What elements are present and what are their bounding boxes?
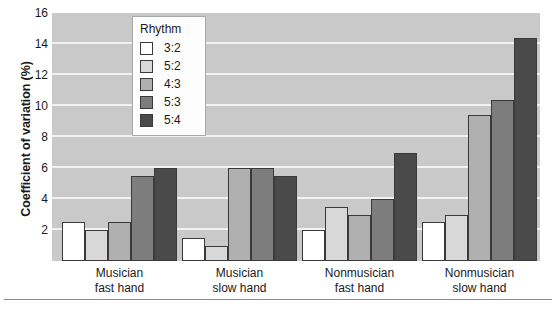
bar	[302, 230, 325, 261]
bar	[371, 199, 394, 261]
legend-title: Rhythm	[140, 22, 199, 36]
x-category-label-line: slow hand	[179, 281, 301, 296]
bar	[325, 207, 348, 261]
legend-label: 3:2	[164, 42, 181, 55]
x-category-label-line: fast hand	[59, 281, 181, 296]
legend-swatch	[140, 60, 153, 73]
footer-divider	[4, 299, 552, 300]
y-tick-label: 10	[18, 100, 48, 112]
y-tick-label: 2	[18, 224, 48, 236]
x-category-label: Musicianslow hand	[179, 266, 301, 296]
y-tick-label: 14	[18, 38, 48, 50]
x-category-label: Nonmusicianslow hand	[419, 266, 541, 296]
x-category-label: Nonmusicianfast hand	[299, 266, 421, 296]
x-category-label-line: slow hand	[419, 281, 541, 296]
bar	[468, 115, 491, 261]
x-category-label-line: Musician	[179, 266, 301, 281]
y-axis-tick-labels: 246810121416	[18, 0, 48, 280]
bar	[348, 215, 371, 262]
legend-label: 5:2	[164, 60, 181, 73]
bar	[445, 215, 468, 262]
y-tick-label: 16	[18, 7, 48, 19]
legend-swatch	[140, 78, 153, 91]
y-tick-label: 12	[18, 69, 48, 81]
x-axis-category-labels: Musicianfast handMusicianslow handNonmus…	[52, 266, 540, 300]
bar	[274, 176, 297, 261]
bar	[85, 230, 108, 261]
x-category-label-line: Nonmusician	[419, 266, 541, 281]
bar	[422, 222, 445, 261]
bar	[394, 153, 417, 262]
legend-entry: 5:3	[140, 93, 199, 111]
y-tick-label: 8	[18, 131, 48, 143]
bar	[131, 176, 154, 261]
legend-entry: 5:4	[140, 111, 199, 129]
bar	[205, 246, 228, 262]
bar	[514, 38, 537, 261]
legend-entry: 4:3	[140, 75, 199, 93]
legend-label: 4:3	[164, 78, 181, 91]
bar	[491, 100, 514, 261]
x-category-label-line: fast hand	[299, 281, 421, 296]
legend-swatch	[140, 114, 153, 127]
bar	[228, 168, 251, 261]
legend-label: 5:4	[164, 114, 181, 127]
y-tick-label: 6	[18, 162, 48, 174]
legend-swatch	[140, 42, 153, 55]
y-tick-label: 4	[18, 193, 48, 205]
legend: Rhythm 3:25:24:35:35:4	[132, 16, 206, 136]
x-category-label: Musicianfast hand	[59, 266, 181, 296]
legend-entry: 5:2	[140, 57, 199, 75]
legend-label: 5:3	[164, 96, 181, 109]
bar	[182, 238, 205, 261]
bar	[62, 222, 85, 261]
plot-area	[52, 13, 540, 261]
x-category-label-line: Nonmusician	[299, 266, 421, 281]
bar-chart-figure: Coefficient of variation (%) 24681012141…	[0, 0, 556, 311]
bar	[108, 222, 131, 261]
bar	[154, 168, 177, 261]
bar-group	[302, 13, 417, 261]
bar-group	[422, 13, 537, 261]
legend-entry: 3:2	[140, 39, 199, 57]
bar	[251, 168, 274, 261]
legend-entries: 3:25:24:35:35:4	[140, 39, 199, 129]
x-category-label-line: Musician	[59, 266, 181, 281]
legend-swatch	[140, 96, 153, 109]
